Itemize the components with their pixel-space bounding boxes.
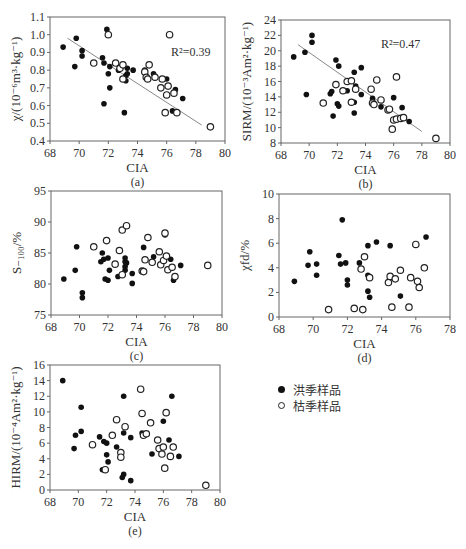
data-point	[145, 76, 151, 82]
data-point	[162, 230, 168, 236]
y-axis-label: SIRM/(10⁻³Am²·kg⁻¹)	[239, 22, 254, 141]
x-tick-label: 72	[331, 148, 343, 162]
figure-charts: 687072747678800.40.50.60.70.80.91.01.1CI…	[0, 0, 466, 549]
plot-frame	[51, 191, 222, 315]
data-point	[130, 67, 136, 73]
data-point	[309, 33, 315, 39]
data-point	[80, 290, 86, 296]
x-tick-label: 74	[376, 322, 388, 336]
y-tick-label: 80	[34, 277, 46, 291]
data-point	[407, 274, 413, 280]
data-point	[325, 306, 331, 312]
data-point	[406, 304, 412, 310]
data-point	[149, 259, 155, 265]
data-point	[365, 243, 371, 249]
data-point	[423, 234, 429, 240]
data-point	[91, 60, 97, 66]
data-point	[304, 92, 310, 98]
x-tick-label: 74	[131, 320, 143, 334]
data-point	[154, 437, 160, 443]
data-point	[60, 378, 66, 384]
data-point	[365, 288, 371, 294]
legend-item-dry-season: 枯季样品	[278, 397, 341, 413]
data-point	[351, 110, 357, 116]
data-point	[72, 64, 78, 70]
y-tick-label: 8	[39, 421, 45, 435]
data-point	[163, 409, 169, 415]
data-point	[159, 451, 165, 457]
data-point	[80, 295, 86, 301]
scatter-chart-d: 6870727476780246810CIA(d)χfd/%	[237, 187, 456, 365]
data-point	[207, 124, 213, 130]
data-point	[162, 465, 168, 471]
scatter-chart-b: 6870727476788081012141618202224CIA(b)SIR…	[239, 13, 456, 191]
data-point	[421, 265, 427, 271]
data-point	[374, 239, 380, 245]
y-tick-label: 10	[262, 187, 274, 201]
data-point	[146, 62, 152, 68]
y-tick-label: 95	[34, 184, 46, 198]
data-point	[386, 106, 392, 112]
data-point	[100, 55, 106, 61]
y-tick-label: 0.4	[30, 134, 45, 148]
data-point	[358, 92, 364, 98]
x-tick-label: 72	[341, 322, 353, 336]
data-point	[399, 105, 405, 111]
data-point	[156, 249, 162, 255]
data-point	[74, 244, 80, 250]
data-point	[140, 268, 146, 274]
data-point	[160, 444, 166, 450]
data-point	[158, 85, 164, 91]
data-point	[60, 44, 66, 50]
data-point	[351, 69, 357, 75]
data-point	[358, 266, 364, 272]
data-point	[142, 257, 148, 263]
data-point	[351, 305, 357, 311]
data-point	[143, 431, 149, 437]
x-tick-label: 80	[444, 148, 456, 162]
data-point	[128, 478, 134, 484]
series-dry-season	[325, 241, 427, 313]
x-tick-label: 76	[161, 146, 173, 160]
data-point	[320, 100, 326, 106]
y-tick-label: 4	[39, 452, 45, 466]
data-point	[345, 277, 351, 283]
data-point	[128, 435, 134, 441]
data-point	[161, 418, 167, 424]
data-point	[314, 261, 320, 267]
x-tick-label: 68	[44, 495, 56, 509]
data-point	[100, 250, 106, 256]
data-point	[169, 264, 175, 270]
legend: 洪季样品 枯季样品	[278, 381, 341, 413]
data-point	[107, 85, 113, 91]
data-point	[400, 114, 406, 120]
data-point	[433, 135, 439, 141]
data-point	[79, 48, 85, 54]
data-point	[101, 60, 107, 66]
data-point	[73, 433, 79, 439]
data-point	[374, 77, 380, 83]
data-point	[71, 446, 77, 452]
data-point	[361, 254, 367, 260]
chart-caption: (d)	[358, 351, 372, 365]
x-tick-label: 70	[74, 320, 86, 334]
data-point	[393, 74, 399, 80]
data-point	[165, 83, 171, 89]
data-point	[178, 263, 184, 269]
data-point	[104, 452, 110, 458]
data-point	[172, 273, 178, 279]
data-point	[336, 103, 342, 109]
data-point	[358, 65, 364, 71]
data-point	[147, 420, 153, 426]
series-flood-season	[292, 217, 429, 300]
data-point	[292, 279, 298, 285]
x-axis-label: CIA	[126, 160, 149, 175]
data-point	[391, 95, 397, 101]
y-tick-label: 1.0	[30, 28, 45, 42]
data-point	[61, 276, 67, 282]
data-point	[174, 109, 180, 115]
data-point	[105, 277, 111, 283]
y-tick-label: 2	[268, 285, 274, 299]
data-point	[163, 92, 169, 98]
x-axis-label: CIA	[124, 509, 147, 524]
